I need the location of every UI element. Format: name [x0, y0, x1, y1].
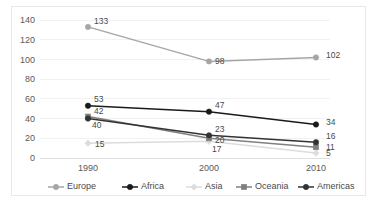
data-point-africa-2010	[313, 122, 318, 127]
data-point-asia-1990	[85, 140, 91, 146]
data-point-africa-1990	[85, 103, 90, 108]
data-point-americas-2010	[313, 140, 318, 145]
y-tick-label-100: 100	[20, 55, 35, 65]
data-label-europe-2000: 98	[215, 56, 225, 66]
y-tick-label-20: 20	[25, 133, 35, 143]
legend-label-africa: Africa	[141, 181, 164, 191]
data-point-asia-2010	[313, 150, 319, 156]
data-label-asia-1990: 15	[95, 139, 105, 149]
y-tick-label-0: 0	[30, 153, 35, 163]
data-label-americas-2010: 16	[326, 131, 336, 141]
y-tick-label-40: 40	[25, 114, 35, 124]
data-series	[85, 24, 319, 156]
data-point-americas-1990	[85, 116, 90, 121]
data-point-labels: 1339810253473415175422011402316	[92, 16, 340, 158]
x-tick-label-2000: 2000	[199, 163, 219, 173]
legend-marker-africa	[127, 184, 132, 189]
y-tick-label-60: 60	[25, 94, 35, 104]
data-point-africa-2000	[206, 109, 211, 114]
data-point-americas-2000	[206, 133, 211, 138]
series-line-europe	[88, 27, 316, 62]
x-tick-label-1990: 1990	[78, 163, 98, 173]
legend-item-europe[interactable]: Europe	[48, 181, 96, 191]
data-point-oceania-2010	[313, 145, 318, 150]
data-label-africa-2010: 34	[326, 117, 336, 127]
legend-label-asia: Asia	[205, 181, 223, 191]
data-label-europe-2010: 102	[326, 50, 340, 60]
data-label-africa-1990: 53	[94, 94, 104, 104]
y-tick-label-140: 140	[20, 15, 35, 25]
legend-item-oceania[interactable]: Oceania	[236, 181, 289, 191]
legend-marker-europe	[53, 184, 58, 189]
legend-label-oceania: Oceania	[255, 181, 289, 191]
data-label-americas-2000: 23	[215, 124, 225, 134]
data-label-oceania-1990: 42	[94, 106, 104, 116]
legend-label-europe: Europe	[67, 181, 96, 191]
y-axis-tick-labels: 020406080100120140	[20, 15, 35, 163]
y-tick-label-120: 120	[20, 35, 35, 45]
legend-item-africa[interactable]: Africa	[122, 181, 164, 191]
data-label-oceania-2010: 11	[326, 142, 335, 152]
chart-plot-wrapper: 020406080100120140 199020002010 13398102…	[0, 0, 378, 209]
data-label-europe-1990: 133	[94, 16, 108, 26]
legend-marker-americas	[303, 184, 308, 189]
data-point-europe-2010	[313, 55, 318, 60]
data-point-europe-2000	[206, 59, 211, 64]
chart-legend: EuropeAfricaAsiaOceaniaAmericas	[48, 181, 355, 191]
legend-label-americas: Americas	[317, 181, 355, 191]
series-line-africa	[88, 106, 316, 125]
x-axis-tick-labels: 199020002010	[78, 163, 326, 173]
data-label-asia-2000: 17	[212, 144, 222, 154]
y-tick-label-80: 80	[25, 74, 35, 84]
legend-marker-asia	[191, 184, 197, 190]
x-tick-label-2010: 2010	[306, 163, 326, 173]
data-label-oceania-2000: 20	[215, 135, 225, 145]
legend-item-americas[interactable]: Americas	[298, 181, 355, 191]
data-label-americas-1990: 40	[92, 120, 102, 130]
data-point-europe-1990	[85, 24, 90, 29]
series-line-asia	[88, 141, 316, 153]
legend-item-asia[interactable]: Asia	[186, 181, 223, 191]
line-chart-svg: 020406080100120140 199020002010 13398102…	[0, 0, 378, 209]
gridlines	[40, 20, 330, 158]
legend-marker-oceania	[241, 184, 246, 189]
chart-container: 020406080100120140 199020002010 13398102…	[0, 0, 378, 209]
data-label-africa-2000: 47	[215, 100, 225, 110]
